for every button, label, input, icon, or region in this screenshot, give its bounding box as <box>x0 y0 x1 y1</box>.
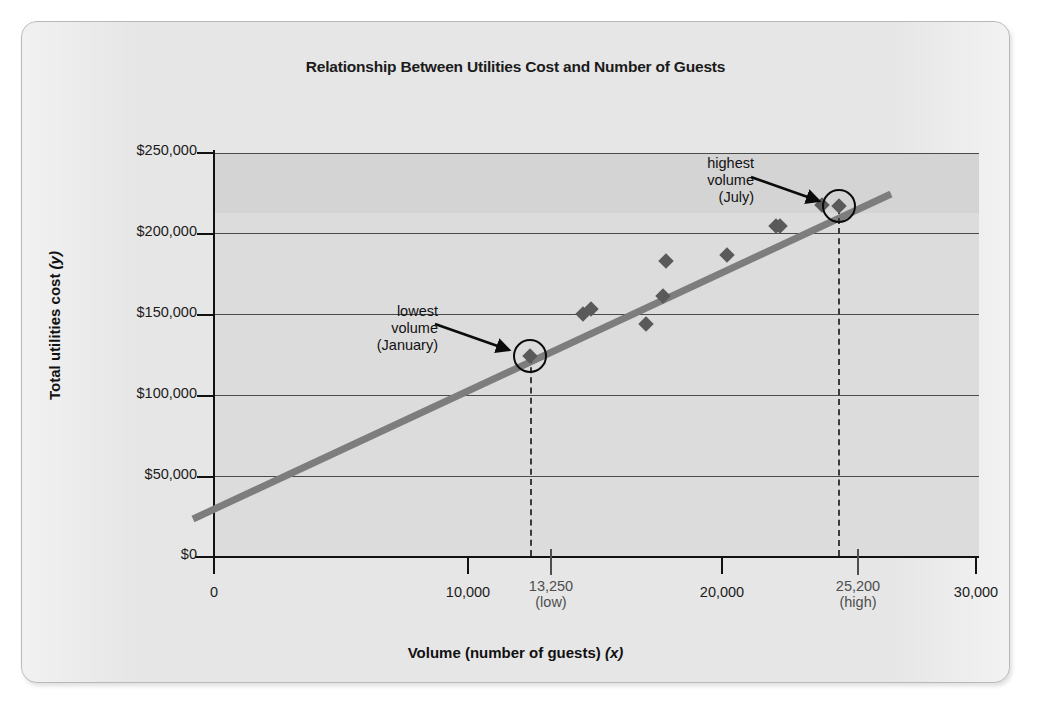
plot-top-band <box>214 153 979 213</box>
annotation-lowest-line-2: volume <box>328 320 438 337</box>
y-tick-mark-200000 <box>197 233 214 235</box>
annotation-highest-line-2: volume <box>644 172 754 189</box>
x-tick-label-13250: 13,250 (low) <box>529 578 573 610</box>
chart-title: Relationship Between Utilities Cost and … <box>22 58 1009 76</box>
y-tick-mark-100000 <box>197 395 214 397</box>
gridline-200000 <box>214 233 979 234</box>
y-tick-label-200000: $200,000 <box>97 223 197 239</box>
x-tick-label-10000: 10,000 <box>446 584 490 600</box>
x-tick-mark-25200 <box>857 549 859 575</box>
annotation-highest-line-1: highest <box>644 155 754 172</box>
gridline-50000 <box>214 476 979 477</box>
x-axis-title-text: Volume (number of guests) <box>408 644 605 661</box>
y-tick-mark-0 <box>197 556 214 558</box>
y-axis-title-text: Total utilities cost <box>46 269 63 400</box>
x-axis-title-variable: (x) <box>605 644 623 661</box>
plot-area <box>214 153 979 557</box>
x-tick-label-25200-value: 25,200 <box>836 578 880 594</box>
x-tick-label-20000: 20,000 <box>700 584 744 600</box>
y-tick-label-50000: $50,000 <box>97 466 197 482</box>
annotation-highest-line-3: (July) <box>644 189 754 206</box>
y-tick-label-250000: $250,000 <box>97 142 197 158</box>
x-tick-mark-0 <box>213 557 215 574</box>
annotation-lowest-line-1: lowest <box>328 303 438 320</box>
y-axis-title-variable: (y) <box>46 251 63 269</box>
x-tick-mark-20000 <box>721 557 723 574</box>
annotation-lowest-volume: lowest volume (January) <box>328 303 438 354</box>
dashed-dropline-low <box>530 357 532 556</box>
y-tick-label-100000: $100,000 <box>97 385 197 401</box>
gridline-250000 <box>214 153 979 154</box>
y-axis-title: Total utilities cost (y) <box>46 176 63 476</box>
y-tick-mark-50000 <box>197 476 214 478</box>
dashed-dropline-high <box>838 208 840 556</box>
x-axis-title: Volume (number of guests) (x) <box>22 644 1009 661</box>
x-tick-mark-13250 <box>550 549 552 575</box>
highlight-circle-lowest-volume <box>513 339 547 373</box>
y-tick-mark-250000 <box>197 152 214 154</box>
x-tick-mark-30000 <box>975 557 977 574</box>
chart-figure-panel: Relationship Between Utilities Cost and … <box>21 21 1010 683</box>
y-tick-mark-150000 <box>197 314 214 316</box>
x-tick-label-0: 0 <box>210 584 218 600</box>
x-tick-label-25200-sub: (high) <box>836 594 880 610</box>
highlight-circle-highest-volume <box>822 189 856 223</box>
x-tick-label-13250-value: 13,250 <box>529 578 573 594</box>
y-tick-label-150000: $150,000 <box>97 304 197 320</box>
annotation-highest-volume: highest volume (July) <box>644 155 754 206</box>
y-tick-label-0: $0 <box>97 546 197 562</box>
x-tick-mark-10000 <box>467 557 469 574</box>
x-axis-line <box>195 556 979 558</box>
gridline-100000 <box>214 395 979 396</box>
x-tick-label-30000: 30,000 <box>954 584 998 600</box>
y-axis-line <box>213 150 215 574</box>
x-tick-label-25200: 25,200 (high) <box>836 578 880 610</box>
annotation-lowest-line-3: (January) <box>328 337 438 354</box>
x-tick-label-13250-sub: (low) <box>529 594 573 610</box>
